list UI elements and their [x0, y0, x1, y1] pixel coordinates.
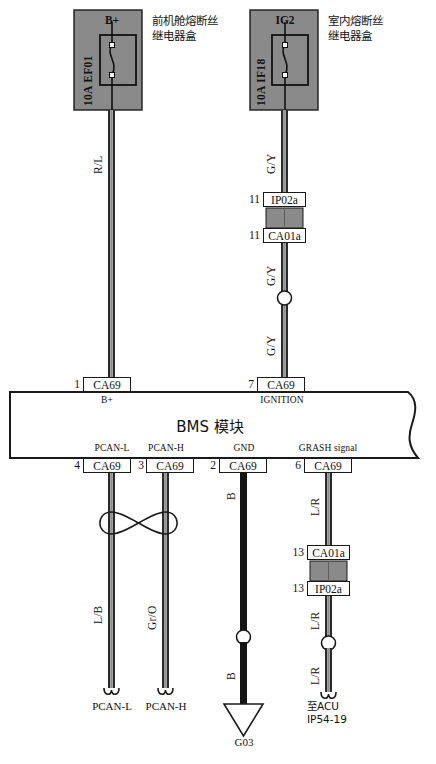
- wire-label-pcan-h: Gr/O: [146, 590, 158, 630]
- wire-crash-lower: [325, 648, 332, 692]
- wiring-diagram: B+ 10A EF01 前机舱熔断丝 继电器盒 IG2 10A IF18 室内熔…: [0, 0, 436, 764]
- inline-connector-top-coupler: [266, 208, 303, 228]
- inline-connector-ip02a-top[interactable]: IP02a: [263, 192, 306, 207]
- interior-fuse-box-caption: 室内熔断丝 继电器盒: [328, 14, 418, 44]
- front-fuse-box-caption: 前机舱熔断丝 继电器盒: [152, 14, 242, 44]
- interior-fuse-output-label: IG2: [265, 14, 305, 26]
- splice-point-crash: [322, 636, 336, 650]
- inline-bottom-lower-pin: 13: [286, 581, 304, 596]
- wire-end-curl-pcan-l: [104, 688, 119, 694]
- wire-label-gnd-upper: B: [225, 478, 237, 500]
- bms-connector-pin-4[interactable]: CA69: [83, 458, 131, 473]
- wire-label-gnd-lower: B: [225, 658, 237, 680]
- wire-crash-upper: [325, 470, 332, 545]
- inline-connector-bottom-coupler: [310, 561, 347, 581]
- bms-pin-7-function: IGNITION: [251, 395, 313, 405]
- ground-symbol: [224, 704, 263, 736]
- splice-point-gnd: [237, 630, 251, 644]
- wire-g-y-mid: [281, 243, 288, 298]
- bms-connector-pin-6[interactable]: CA69: [304, 458, 352, 473]
- bms-pin-3-function: PCAN-H: [136, 443, 196, 453]
- wire-gnd-lower: [240, 642, 247, 704]
- interior-fuse-rating-label: 10A IF18: [255, 30, 267, 106]
- inline-top-lower-pin: 11: [242, 228, 260, 243]
- bms-module-title: BMS 模块: [140, 415, 280, 436]
- bms-pin-2-function: GND: [214, 443, 274, 453]
- inline-bottom-upper-pin: 13: [286, 545, 304, 560]
- bms-pin-4-function: PCAN-L: [82, 443, 142, 453]
- front-fuse-output-label: B+: [92, 14, 132, 26]
- inline-connector-ip02a-bottom[interactable]: IP02a: [307, 581, 350, 596]
- bms-pin-6-number: 6: [283, 458, 301, 473]
- bms-connector-pin-3[interactable]: CA69: [146, 458, 194, 473]
- bms-pin-1-function: B+: [77, 395, 137, 405]
- wire-pcan-h: [162, 470, 169, 688]
- wire-label-pcan-l: L/B: [92, 590, 104, 624]
- bms-pin-1-number: 1: [62, 377, 80, 392]
- wire-end-curl-pcan-h: [158, 688, 173, 694]
- front-fuse-rating-label: 10A EF01: [82, 30, 94, 106]
- wire-label-crash-upper: L/R: [309, 486, 321, 516]
- termination-acu-label: 至ACU IP54-19: [307, 700, 383, 726]
- bms-connector-pin-7[interactable]: CA69: [257, 377, 305, 392]
- bms-pin-4-number: 4: [62, 458, 80, 473]
- wire-b-plus: [108, 110, 115, 380]
- bms-pin-6-function: GRASH signal: [288, 443, 368, 453]
- wire-end-curl-crash: [321, 692, 336, 698]
- termination-ground-label: G03: [214, 736, 274, 748]
- bms-pin-3-number: 3: [131, 458, 144, 473]
- wire-label-crash-mid: L/R: [309, 600, 321, 630]
- bms-connector-pin-1[interactable]: CA69: [83, 377, 131, 392]
- wire-label-g-y-upper: G/Y: [265, 140, 277, 174]
- wire-label-g-y-mid: G/Y: [265, 252, 277, 286]
- wire-pcan-l: [108, 470, 115, 688]
- termination-pcan-h: PCAN-H: [132, 700, 200, 712]
- bms-pin-7-number: 7: [236, 377, 254, 392]
- inline-top-upper-pin: 11: [242, 192, 260, 207]
- wire-crash-mid: [325, 596, 332, 638]
- wire-g-y-upper: [281, 110, 288, 192]
- wire-label-g-y-lower: G/Y: [265, 322, 277, 356]
- wire-gnd-upper: [240, 470, 247, 632]
- bms-pin-2-number: 2: [198, 458, 216, 473]
- bms-connector-pin-2[interactable]: CA69: [219, 458, 267, 473]
- inline-connector-ca01a-bottom[interactable]: CA01a: [307, 545, 350, 560]
- wire-g-y-lower: [281, 298, 288, 380]
- inline-connector-ca01a-top[interactable]: CA01a: [263, 228, 306, 243]
- splice-point-g-y: [278, 291, 292, 305]
- wire-label-b-plus: R/L: [92, 140, 104, 174]
- wire-label-crash-lower: L/R: [309, 655, 321, 685]
